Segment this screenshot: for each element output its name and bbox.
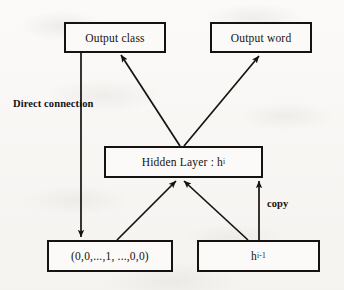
node-output-class: Output class	[64, 22, 166, 53]
edge-hidden-to-output-class	[121, 55, 180, 146]
node-input-onehot: (0,0,...,1, ...,0,0)	[47, 240, 173, 272]
node-output-class-label: Output class	[85, 32, 145, 44]
node-input-onehot-label: (0,0,...,1, ...,0,0)	[71, 250, 149, 262]
edge-label-direct-connection: Direct connection	[13, 98, 94, 109]
edge-prev-hidden-to-hidden	[184, 181, 248, 240]
diagram-canvas: Output class Output word Hidden Layer : …	[0, 0, 344, 290]
node-hidden-layer: Hidden Layer : hi	[104, 146, 263, 178]
node-output-word: Output word	[210, 22, 312, 53]
edge-hidden-to-output-word	[184, 56, 259, 146]
edge-label-copy: copy	[267, 198, 288, 209]
edge-input-to-hidden	[117, 181, 176, 240]
node-prev-hidden: hi-1	[197, 240, 320, 272]
node-output-word-label: Output word	[231, 32, 292, 44]
node-hidden-layer-label: Hidden Layer : h	[142, 156, 223, 168]
